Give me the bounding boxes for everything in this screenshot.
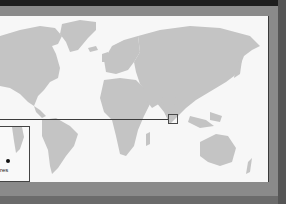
inset-landmass [10,127,30,157]
inset-map: res [0,126,30,182]
world-map [0,16,269,182]
right-frame-edge [278,0,286,204]
location-highlight-box [168,114,178,124]
inset-place-label: res [0,167,8,173]
location-dot-icon [6,159,10,163]
continents [0,16,268,182]
inset-leader-line [0,119,168,120]
